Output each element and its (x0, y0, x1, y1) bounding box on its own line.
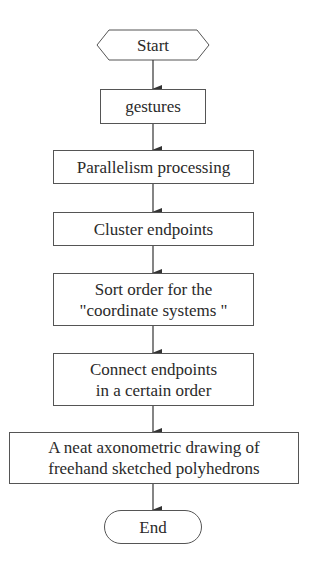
start-label: Start (137, 35, 169, 56)
step-label: Parallelism processing (77, 157, 230, 178)
step-sort-order: Sort order for the "coordinate systems " (53, 273, 254, 326)
step-label: Connect endpoints in a certain order (90, 359, 217, 401)
step-label: Cluster endpoints (94, 219, 213, 240)
step-connect-endpoints: Connect endpoints in a certain order (53, 353, 254, 406)
step-label: Sort order for the "coordinate systems " (80, 279, 228, 321)
step-label: gestures (125, 96, 181, 117)
step-axonometric-drawing: A neat axonometric drawing of freehand s… (9, 432, 299, 484)
end-label: End (139, 517, 166, 538)
step-cluster-endpoints: Cluster endpoints (53, 212, 254, 246)
step-gestures: gestures (100, 89, 206, 124)
end-node: End (104, 510, 202, 544)
step-parallelism-processing: Parallelism processing (53, 150, 254, 184)
step-label: A neat axonometric drawing of freehand s… (48, 437, 260, 479)
start-node: Start (97, 30, 209, 60)
